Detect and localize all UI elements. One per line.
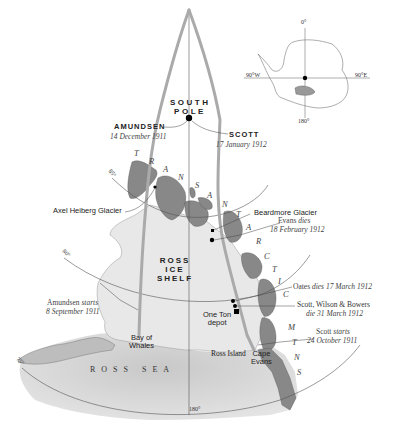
mtn-letter: T	[272, 264, 277, 274]
scott-start-label: Scott starts	[316, 328, 350, 336]
scott-date: 17 January 1912	[216, 141, 267, 149]
amundsen-start-date: 8 September 1911	[46, 308, 100, 316]
mtn-letter: T	[236, 209, 241, 219]
mtn-letter: C	[264, 251, 270, 261]
axel-heiberg-label: Axel Heiberg Glacier	[53, 207, 122, 215]
ross-ice-shelf-label: ROSS ICE SHELF	[155, 257, 195, 283]
mtn-letter: S	[297, 367, 301, 377]
mtn-letter: A	[207, 190, 212, 200]
mtn-letter: S	[195, 180, 199, 190]
amundsen-start-label: Amundsen starts	[47, 299, 98, 307]
bay-of-whales-label: Bay of Whales	[129, 334, 154, 351]
ross-island-label: Ross Island	[211, 350, 246, 358]
mtn-letter: C	[283, 289, 289, 299]
inset-label-90w: 90°W	[246, 72, 260, 79]
mtn-letter: A	[246, 222, 251, 232]
evans-event-label: Evans dies	[278, 217, 310, 225]
one-ton-depot-label: One Ton depot	[203, 311, 231, 328]
mtn-letter: N	[178, 172, 184, 182]
cape-evans-label: Cape Evans	[251, 350, 272, 367]
swb-event-label: Scott, Wilson & Bowers	[297, 301, 370, 309]
swb-event-date: die 31 March 1912	[306, 310, 363, 318]
scott-start-date: 24 October 1911	[307, 337, 357, 345]
mtn-letter: T	[134, 148, 139, 158]
ross-region-highlight	[295, 86, 315, 95]
mtn-letter: N	[222, 199, 228, 209]
amundsen-label: AMUNDSEN	[114, 123, 165, 131]
ross-sea-label: ROSS SEA	[90, 366, 175, 375]
mtn-letter: N	[294, 352, 300, 362]
oates-event-label: Oates dies 17 March 1912	[293, 283, 372, 291]
inset-locator-map	[244, 28, 370, 118]
mtn-letter: R	[149, 156, 154, 166]
beardmore-marker	[211, 229, 214, 232]
one-ton-depot-marker	[234, 309, 239, 314]
inset-label-180: 180°	[298, 118, 309, 125]
swb-death-marker	[233, 304, 237, 308]
meridian-180-label: 180°	[189, 406, 200, 413]
oates-death-marker	[231, 299, 235, 303]
mtn-letter: T	[292, 337, 297, 347]
mtn-letter: R	[256, 236, 261, 246]
inset-label-0: 0°	[301, 19, 306, 26]
inset-label-90e: 90°E	[355, 72, 367, 79]
scott-label: SCOTT	[229, 131, 259, 139]
mtn-letter: I	[278, 276, 281, 286]
mtn-letter: A	[163, 164, 168, 174]
mtn-letter: M	[288, 322, 295, 332]
evans-event-date: 18 February 1912	[270, 226, 325, 234]
south-pole-label: SOUTH POLE	[170, 99, 210, 117]
evans-death-marker	[210, 238, 214, 242]
antarctica-outline	[258, 40, 348, 108]
amundsen-date: 14 December 1911	[110, 133, 167, 141]
